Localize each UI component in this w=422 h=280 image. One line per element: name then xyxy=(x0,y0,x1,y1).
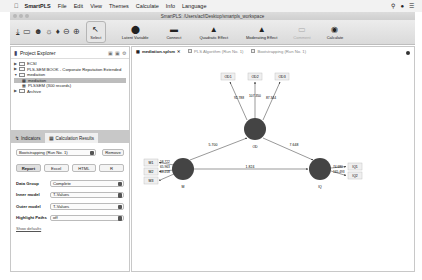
zoom-in-icon[interactable]: ⊕ xyxy=(73,27,80,37)
inner-model-select[interactable]: T-Values xyxy=(50,192,124,199)
inner-model-value: T-Values xyxy=(53,192,69,197)
loading-od3: 87.344 xyxy=(266,96,276,100)
show-defaults-link[interactable]: Show defaults xyxy=(16,226,124,231)
model-canvas[interactable]: ▩ mediation.splsm ✕ PLS Algorithm (Run N… xyxy=(131,46,415,272)
run-select[interactable]: Bootstrapping (Run No. 1) xyxy=(16,149,96,156)
project-icon xyxy=(19,62,25,66)
data-group-label: Data Group xyxy=(16,181,50,186)
construct-od[interactable]: OD xyxy=(244,118,266,149)
zoom-out-icon[interactable]: ⊖ xyxy=(63,27,70,37)
svg-text:M2: M2 xyxy=(149,170,154,174)
tab-calculation-results[interactable]: ▦ Calculation Results xyxy=(45,133,99,143)
palette-icon[interactable]: ♦ xyxy=(56,27,60,37)
outer-model-select[interactable]: T-Values xyxy=(50,203,124,210)
path-value-m-iq: 1.824 xyxy=(246,165,255,169)
tab-calculation-results-label: Calculation Results xyxy=(56,136,95,141)
outer-model-value: T-Values xyxy=(53,204,69,209)
excel-button[interactable]: Excel xyxy=(44,164,69,172)
lightbulb-icon[interactable]: ☼ xyxy=(45,27,52,37)
zoom-window-button[interactable] xyxy=(25,14,29,18)
menu-calculate[interactable]: Calculate xyxy=(136,3,159,9)
connect-button[interactable]: ▬ Connect xyxy=(160,21,187,43)
indicator-od2[interactable]: OD2 xyxy=(248,73,262,80)
quadratic-effect-icon: ▲ xyxy=(210,25,218,35)
latent-variable-icon: ⬤ xyxy=(131,25,140,35)
calculate-button[interactable]: ◉ Calculate xyxy=(321,21,350,43)
menu-app-name[interactable]: SmartPLS xyxy=(25,3,51,9)
indicator-iq2[interactable]: IQ2 xyxy=(348,172,362,179)
outer-model-row: Outer model T-Values xyxy=(16,203,124,210)
highlight-paths-label: Highlight Paths xyxy=(16,215,50,220)
svg-text:OD: OD xyxy=(252,145,258,149)
path-value-od-iq: 7.648 xyxy=(290,143,299,147)
inner-model-label: Inner model xyxy=(16,192,50,197)
cursor-icon: ↖ xyxy=(92,25,99,35)
r-button[interactable]: R xyxy=(99,164,124,172)
path-m-od[interactable] xyxy=(190,138,247,160)
loading-iq2: 165.493 xyxy=(333,170,345,174)
tab-indicators[interactable]: ↯ Indicators xyxy=(11,133,45,143)
comment-icon: ▭ xyxy=(298,25,306,35)
project-explorer-panel: ▮ Project Explorer ▣ ▣ ⚙ ▶ ECSI ▶ PLS-SE… xyxy=(10,46,130,131)
loading-od1: 92.788 xyxy=(234,96,244,100)
tree-item-label: mediation xyxy=(27,72,45,77)
menu-language[interactable]: Language xyxy=(182,3,206,9)
indicator-m3[interactable]: M3 xyxy=(144,177,158,184)
select-tool-button[interactable]: ↖ Select xyxy=(86,21,106,43)
html-button[interactable]: HTML xyxy=(72,164,97,172)
dropdown-arrow-icon xyxy=(118,205,122,210)
quadratic-effect-button[interactable]: ▲ Quadratic Effect xyxy=(193,21,234,43)
svg-text:M1: M1 xyxy=(149,161,154,165)
construct-m[interactable]: M xyxy=(172,158,194,189)
comment-button[interactable]: ▭ Comment xyxy=(287,21,316,43)
indicator-iq1[interactable]: IQ1 xyxy=(348,163,362,170)
menu-info[interactable]: Info xyxy=(166,3,175,9)
moderating-effect-button[interactable]: ▲ Moderating Effect xyxy=(240,21,283,43)
path-model-diagram: OD1 OD2 OD3 92.788 107.350 87.344 OD M1 … xyxy=(132,47,416,273)
apple-icon[interactable]:  xyxy=(14,3,19,9)
notification-center-icon[interactable]: ☰ xyxy=(409,2,414,9)
collapse-all-icon[interactable]: ▣ xyxy=(108,50,113,56)
loading-iq1: 74.680 xyxy=(333,165,343,169)
indicator-od3[interactable]: OD3 xyxy=(275,73,289,80)
user-icon[interactable]: ☻ xyxy=(34,27,42,37)
construct-iq[interactable]: IQ xyxy=(309,158,331,189)
menu-file[interactable]: File xyxy=(58,3,67,9)
menu-themes[interactable]: Themes xyxy=(109,3,129,9)
close-window-button[interactable] xyxy=(13,14,17,18)
moderating-effect-icon: ▲ xyxy=(258,25,266,35)
results-icon: ▦ xyxy=(49,136,54,141)
indicator-m2[interactable]: M2 xyxy=(144,168,158,175)
moderating-effect-label: Moderating Effect xyxy=(246,35,277,40)
new-project-icon[interactable]: ▭ xyxy=(23,27,31,37)
minimize-window-button[interactable] xyxy=(19,14,23,18)
indicator-od1[interactable]: OD1 xyxy=(221,73,235,80)
settings-icon[interactable]: ⚙ xyxy=(122,50,126,56)
highlight-paths-select[interactable]: off xyxy=(50,215,124,222)
highlight-paths-value: off xyxy=(53,215,58,220)
data-group-select[interactable]: Complete xyxy=(50,180,124,187)
indicator-m1[interactable]: M1 xyxy=(144,159,158,166)
import-icon[interactable]: ⤓ xyxy=(16,27,20,37)
tree-item-label: PLSSEM (300 records) xyxy=(28,83,71,88)
tree-item-pls-sem-book[interactable]: ▶ PLS-SEM BOOK - Corporate Reputation Ex… xyxy=(14,67,126,73)
latent-variable-button[interactable]: ⬤ Latent Variable xyxy=(116,21,155,43)
calculate-label: Calculate xyxy=(327,35,344,40)
menubar:  SmartPLS File Edit View Themes Calcula… xyxy=(0,0,422,12)
menu-view[interactable]: View xyxy=(90,3,102,9)
menu-edit[interactable]: Edit xyxy=(74,3,83,9)
expand-all-icon[interactable]: ▣ xyxy=(115,50,120,56)
siri-icon[interactable]: ● xyxy=(400,3,404,9)
remove-button[interactable]: Remove xyxy=(102,149,124,156)
tab-indicators-label: Indicators xyxy=(21,136,41,141)
outer-model-label: Outer model xyxy=(16,204,50,209)
tree-item-archive[interactable]: ▶ Archive xyxy=(14,89,126,95)
report-button[interactable]: Report xyxy=(16,164,41,172)
svg-text:M3: M3 xyxy=(149,179,154,183)
toolbar-small-icons: ⤓ ▭ ☻ ☼ ♦ ⊖ ⊕ xyxy=(16,27,80,37)
project-icon xyxy=(19,73,25,77)
window-title: SmartPLS: /Users/acf/Desktop/smartpls_wo… xyxy=(161,14,264,19)
spotlight-search-icon[interactable]: ⚲ xyxy=(391,2,395,9)
path-od-iq[interactable] xyxy=(263,138,313,160)
highlight-paths-row: Highlight Paths off xyxy=(16,215,124,222)
